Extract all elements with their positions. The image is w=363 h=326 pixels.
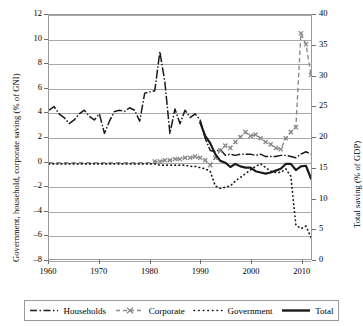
y-axis-left-tick-mark bbox=[44, 186, 48, 187]
y-axis-left-tick-mark bbox=[44, 137, 48, 138]
y-axis-right-tick-label: 25 bbox=[319, 101, 341, 110]
corporate-x-marker bbox=[223, 144, 227, 148]
x-axis-tick-label: 2010 bbox=[282, 267, 322, 276]
y-axis-left-tick-label: 12 bbox=[20, 9, 42, 18]
series-layer bbox=[49, 15, 311, 259]
legend-label-households: Households bbox=[63, 306, 106, 316]
y-axis-right-tick-label: 5 bbox=[319, 224, 341, 233]
gridline bbox=[49, 261, 311, 262]
x-axis-tick-mark bbox=[48, 260, 49, 264]
legend-label-corporate: Corporate bbox=[149, 306, 185, 316]
corporate-x-marker bbox=[259, 136, 263, 140]
y-axis-left-tick-label: 4 bbox=[20, 107, 42, 116]
y-axis-right-tick-mark bbox=[312, 45, 316, 46]
y-axis-right-title: Total saving (% of GDP) bbox=[352, 141, 362, 228]
x-axis-tick-label: 2000 bbox=[231, 267, 271, 276]
x-axis-tick-mark bbox=[302, 260, 303, 264]
x-axis-tick-mark bbox=[251, 260, 252, 264]
corporate-x-marker bbox=[289, 130, 293, 134]
y-axis-left-tick-mark bbox=[44, 235, 48, 236]
dash-dot-line-icon bbox=[29, 306, 59, 315]
chart-figure: Government, household, corporate saving … bbox=[0, 0, 363, 326]
x-axis-tick-mark bbox=[150, 260, 151, 264]
legend-item-total: Total bbox=[281, 306, 333, 316]
y-axis-right-tick-label: 20 bbox=[319, 132, 341, 141]
series-government bbox=[49, 164, 311, 237]
corporate-x-marker bbox=[243, 130, 247, 134]
y-axis-left-tick-mark bbox=[44, 63, 48, 64]
chart-legend: Households Corporate Government Total bbox=[24, 300, 339, 321]
y-axis-left-tick-label: 8 bbox=[20, 58, 42, 67]
y-axis-right-tick-label: 30 bbox=[319, 71, 341, 80]
legend-item-corporate: Corporate bbox=[115, 306, 185, 316]
series-total bbox=[200, 122, 311, 178]
corporate-x-marker bbox=[208, 163, 212, 167]
legend-item-households: Households bbox=[29, 306, 106, 316]
corporate-x-marker bbox=[269, 142, 273, 146]
y-axis-right-tick-mark bbox=[312, 168, 316, 169]
corporate-x-marker bbox=[238, 135, 242, 139]
dotted-line-icon bbox=[193, 306, 223, 315]
legend-item-government: Government bbox=[193, 306, 272, 316]
y-axis-left-tick-label: 2 bbox=[20, 132, 42, 141]
y-axis-right-tick-mark bbox=[312, 106, 316, 107]
y-axis-left-tick-mark bbox=[44, 211, 48, 212]
series-households bbox=[49, 52, 311, 158]
y-axis-right-tick-mark bbox=[312, 76, 316, 77]
y-axis-right-tick-mark bbox=[312, 14, 316, 15]
dashed-x-line-icon bbox=[115, 306, 145, 315]
y-axis-right-tick-label: 10 bbox=[319, 194, 341, 203]
y-axis-right-tick-mark bbox=[312, 199, 316, 200]
legend-label-total: Total bbox=[315, 306, 333, 316]
y-axis-left-tick-mark bbox=[44, 14, 48, 15]
y-axis-right-tick-mark bbox=[312, 229, 316, 230]
y-axis-right-tick-label: 40 bbox=[319, 9, 341, 18]
x-axis-tick-mark bbox=[99, 260, 100, 264]
x-axis-tick-label: 1960 bbox=[28, 267, 68, 276]
x-axis-tick-label: 1980 bbox=[130, 267, 170, 276]
y-axis-left-tick-mark bbox=[44, 112, 48, 113]
y-axis-left-tick-label: 6 bbox=[20, 83, 42, 92]
y-axis-left-tick-mark bbox=[44, 39, 48, 40]
y-axis-right-tick-label: 0 bbox=[319, 255, 341, 264]
y-axis-right-tick-label: 15 bbox=[319, 163, 341, 172]
y-axis-left-tick-label: 0 bbox=[20, 157, 42, 166]
y-axis-left-tick-label: –2 bbox=[20, 181, 42, 190]
corporate-x-marker bbox=[233, 140, 237, 144]
y-axis-left-tick-label: –6 bbox=[20, 230, 42, 239]
x-axis-tick-label: 1970 bbox=[79, 267, 119, 276]
y-axis-left-tick-mark bbox=[44, 162, 48, 163]
legend-label-government: Government bbox=[227, 306, 272, 316]
x-axis-tick-label: 1990 bbox=[180, 267, 220, 276]
y-axis-left-tick-mark bbox=[44, 88, 48, 89]
y-axis-right-tick-mark bbox=[312, 137, 316, 138]
solid-thick-line-icon bbox=[281, 306, 311, 315]
y-axis-right-tick-mark bbox=[312, 260, 316, 261]
y-axis-right-tick-label: 35 bbox=[319, 40, 341, 49]
y-axis-left-tick-label: –4 bbox=[20, 206, 42, 215]
x-axis-tick-mark bbox=[200, 260, 201, 264]
y-axis-left-tick-label: 10 bbox=[20, 34, 42, 43]
plot-area bbox=[48, 14, 312, 260]
y-axis-left-tick-label: –8 bbox=[20, 255, 42, 264]
